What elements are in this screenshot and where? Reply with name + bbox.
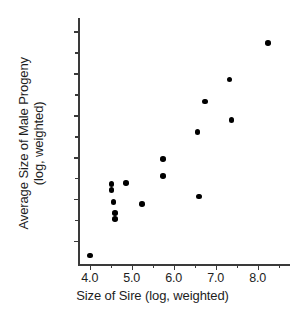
- y-axis-title: Average Size of Male Progeny (log, weigh…: [16, 18, 47, 268]
- data-point: [195, 129, 201, 135]
- x-tick-mark-minor: [111, 265, 112, 268]
- y-tick-mark: [74, 73, 79, 74]
- x-tick-mark-minor: [279, 265, 280, 268]
- y-tick-mark: [74, 241, 79, 242]
- x-tick-mark: [258, 265, 259, 270]
- x-axis-title: Size of Sire (log, weighted): [0, 288, 305, 303]
- y-axis-title-line2: (log, weighted): [31, 18, 46, 268]
- x-tick-mark: [216, 265, 217, 270]
- x-tick-label: 7.0: [196, 271, 236, 285]
- data-point: [87, 253, 93, 259]
- data-point: [227, 77, 233, 83]
- data-point: [160, 173, 166, 179]
- data-point: [109, 187, 115, 193]
- data-point: [123, 180, 129, 186]
- y-axis-title-line1: Average Size of Male Progeny: [16, 18, 31, 268]
- x-tick-mark: [90, 265, 91, 270]
- y-tick-mark-minor: [75, 94, 78, 95]
- scatter-plot-figure: 4.05.06.07.08.09.0 4.05.06.07.08.0 Size …: [0, 0, 305, 321]
- y-tick-mark: [74, 199, 79, 200]
- data-point: [112, 216, 118, 222]
- data-point: [196, 194, 202, 200]
- data-point: [160, 156, 166, 162]
- x-tick-mark-minor: [153, 265, 154, 268]
- x-tick-label: 6.0: [154, 271, 194, 285]
- data-point: [112, 210, 118, 216]
- x-tick-label: 8.0: [238, 271, 278, 285]
- y-tick-mark: [74, 115, 79, 116]
- data-point: [265, 40, 271, 46]
- x-tick-mark: [174, 265, 175, 270]
- y-tick-mark-minor: [75, 52, 78, 53]
- y-tick-mark: [74, 31, 79, 32]
- x-tick-label: 5.0: [112, 271, 152, 285]
- data-point: [202, 99, 208, 105]
- x-tick-label: 4.0: [70, 271, 110, 285]
- x-tick-mark-minor: [237, 265, 238, 268]
- y-axis-line: [78, 18, 80, 264]
- y-tick-mark: [74, 157, 79, 158]
- y-tick-mark-minor: [75, 136, 78, 137]
- data-point: [229, 117, 235, 123]
- plot-area: 4.05.06.07.08.09.0 4.05.06.07.08.0: [78, 18, 290, 264]
- y-tick-mark-minor: [75, 220, 78, 221]
- y-tick-mark-minor: [75, 178, 78, 179]
- data-point: [139, 201, 145, 207]
- x-tick-mark-minor: [195, 265, 196, 268]
- x-tick-mark: [132, 265, 133, 270]
- data-point: [111, 199, 117, 205]
- data-point: [109, 181, 115, 187]
